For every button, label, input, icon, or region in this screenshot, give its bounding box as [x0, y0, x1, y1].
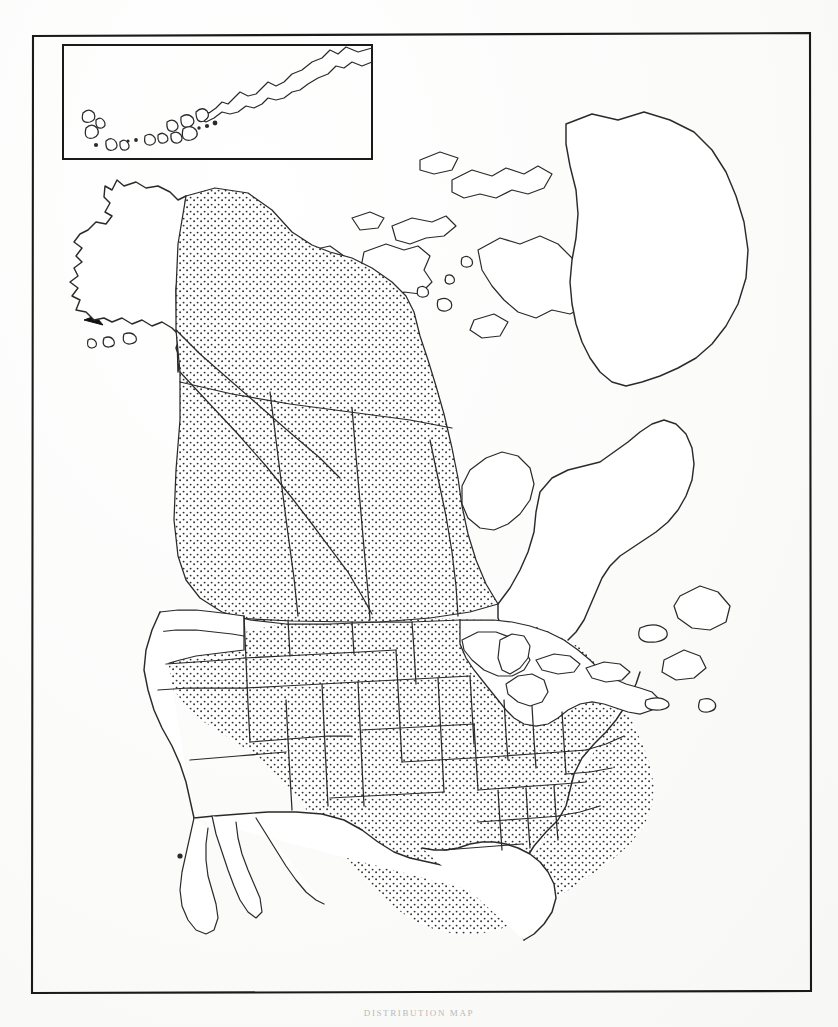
distribution-map-figure [0, 0, 838, 1027]
figure-caption: DISTRIBUTION MAP [0, 1008, 838, 1027]
aleutian-inset [63, 45, 372, 159]
region-greenland [566, 112, 748, 386]
region-alaska [70, 180, 186, 372]
map-canvas [0, 0, 838, 1027]
